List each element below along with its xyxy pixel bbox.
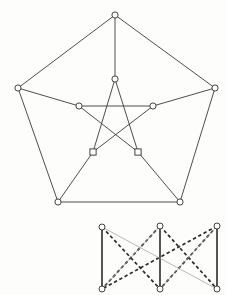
petersen-outer-edges: [18, 15, 215, 202]
petersen-pentagram-edge: [115, 79, 138, 152]
petersen-pentagram-edge: [79, 106, 138, 152]
bipartite-edges: [102, 226, 217, 289]
bipartite-node: [157, 286, 163, 292]
petersen-node: [112, 12, 118, 18]
petersen-spoke-edges: [18, 15, 215, 202]
petersen-node: [150, 103, 156, 109]
diagram-canvas: [0, 0, 227, 295]
petersen-node: [135, 149, 141, 155]
petersen-node: [112, 76, 118, 82]
bipartite-node: [214, 286, 220, 292]
petersen-spoke-edge: [58, 152, 93, 202]
petersen-spoke-edge: [138, 152, 180, 202]
petersen-pentagram-edge: [93, 79, 115, 152]
bipartite-node: [157, 223, 163, 229]
petersen-spoke-edge: [153, 88, 215, 106]
petersen-node: [55, 199, 61, 205]
petersen-node: [212, 85, 218, 91]
petersen-outer-edge: [180, 88, 215, 202]
petersen-outer-edge: [115, 15, 215, 88]
petersen-node: [15, 85, 21, 91]
bipartite-node: [99, 224, 105, 230]
petersen-pentagram-edge: [93, 106, 153, 152]
petersen-pentagram-edges: [79, 79, 153, 152]
petersen-spoke-edge: [18, 88, 79, 106]
figure-root: [0, 0, 227, 295]
petersen-outer-edge: [18, 15, 115, 88]
bipartite-node: [214, 223, 220, 229]
petersen-outer-edge: [18, 88, 58, 202]
bipartite-node: [99, 286, 105, 292]
petersen-node: [177, 199, 183, 205]
petersen-node: [76, 103, 82, 109]
petersen-node: [90, 149, 96, 155]
